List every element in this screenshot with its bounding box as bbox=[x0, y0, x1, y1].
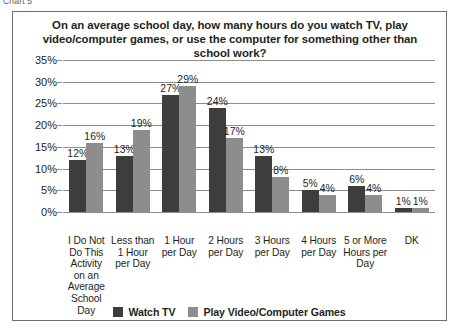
legend-label: Play Video/Computer Games bbox=[203, 306, 345, 318]
bar-group: 5%4% bbox=[296, 60, 343, 212]
bar-group: 1%1% bbox=[389, 60, 436, 212]
legend-item[interactable]: Watch TV bbox=[113, 306, 175, 318]
legend-color-swatch bbox=[113, 307, 123, 317]
bar-value-label: 5% bbox=[303, 178, 318, 189]
y-axis-tick: 30% bbox=[35, 76, 57, 88]
bar-value-label: 6% bbox=[349, 174, 364, 185]
bar[interactable]: 8% bbox=[272, 177, 289, 212]
bar-value-label: 12% bbox=[67, 148, 88, 159]
bar-value-label: 29% bbox=[177, 74, 198, 85]
bar-value-label: 17% bbox=[224, 126, 245, 137]
y-axis-tick: 35% bbox=[35, 54, 57, 66]
bar[interactable]: 19% bbox=[133, 130, 150, 213]
bar[interactable]: 29% bbox=[179, 86, 196, 212]
bar-value-label: 16% bbox=[84, 131, 105, 142]
chart-legend: Watch TVPlay Video/Computer Games bbox=[13, 306, 446, 318]
bar[interactable]: 16% bbox=[86, 143, 103, 212]
x-axis-category-labels: I Do Not Do This Activity on an Average … bbox=[63, 235, 435, 316]
legend-color-swatch bbox=[188, 307, 198, 317]
x-axis-label: 1 Hour per Day bbox=[156, 235, 203, 258]
bar-group: 13%8% bbox=[249, 60, 296, 212]
bar[interactable]: 4% bbox=[365, 195, 382, 212]
chart-number-label: Chart 5 bbox=[3, 0, 32, 6]
y-axis-tick: 5% bbox=[41, 184, 57, 196]
y-axis-tick: 15% bbox=[35, 141, 57, 153]
chart-figure-frame: On an average school day, how many hours… bbox=[12, 11, 447, 321]
bars-layer: 12%16%13%19%27%29%24%17%13%8%5%4%6%4%1%1… bbox=[63, 60, 435, 212]
bar[interactable]: 5% bbox=[302, 190, 319, 212]
bar-value-label: 1% bbox=[396, 196, 411, 207]
bar-value-label: 4% bbox=[366, 183, 381, 194]
x-axis-label: Less than 1 Hour per Day bbox=[110, 235, 157, 270]
x-axis-label: 3 Hours per Day bbox=[249, 235, 296, 258]
y-axis-tick: 10% bbox=[35, 163, 57, 175]
bar[interactable]: 24% bbox=[209, 108, 226, 212]
axis-tick-mark bbox=[57, 147, 62, 148]
chart-title: On an average school day, how many hours… bbox=[27, 18, 433, 61]
bar[interactable]: 4% bbox=[319, 195, 336, 212]
y-axis-tick: 0% bbox=[41, 206, 57, 218]
bar[interactable]: 17% bbox=[226, 138, 243, 212]
y-axis-tick-labels: 0%5%10%15%20%25%30%35% bbox=[13, 60, 61, 212]
bar-group: 12%16% bbox=[63, 60, 110, 212]
legend-item[interactable]: Play Video/Computer Games bbox=[188, 306, 345, 318]
bar[interactable]: 1% bbox=[395, 208, 412, 212]
bar-value-label: 4% bbox=[320, 183, 335, 194]
bar-group: 13%19% bbox=[110, 60, 157, 212]
x-axis-label: 4 Hours per Day bbox=[296, 235, 343, 258]
bar[interactable]: 1% bbox=[412, 208, 429, 212]
bar-group: 6%4% bbox=[342, 60, 389, 212]
bar-value-label: 19% bbox=[131, 118, 152, 129]
y-axis-tick: 20% bbox=[35, 119, 57, 131]
plot-area: 12%16%13%19%27%29%24%17%13%8%5%4%6%4%1%1… bbox=[63, 60, 435, 212]
axis-tick-mark bbox=[57, 125, 62, 126]
x-axis-label: 5 or More Hours per Day bbox=[342, 235, 389, 270]
bar-group: 27%29% bbox=[156, 60, 203, 212]
x-axis-label: DK bbox=[389, 235, 436, 247]
bar[interactable]: 13% bbox=[116, 156, 133, 212]
bar[interactable]: 27% bbox=[162, 95, 179, 212]
x-axis-label: I Do Not Do This Activity on an Average … bbox=[63, 235, 110, 316]
plot-wrapper: 0%5%10%15%20%25%30%35% 12%16%13%19%27%29… bbox=[13, 60, 446, 235]
bar-value-label: 1% bbox=[413, 196, 428, 207]
bar-value-label: 24% bbox=[207, 96, 228, 107]
axis-tick-mark bbox=[57, 82, 62, 83]
gridline bbox=[63, 212, 435, 213]
axis-tick-mark bbox=[57, 169, 62, 170]
axis-tick-mark bbox=[57, 103, 62, 104]
bar[interactable]: 12% bbox=[69, 160, 86, 212]
bar[interactable]: 13% bbox=[255, 156, 272, 212]
bar-value-label: 13% bbox=[253, 144, 274, 155]
axis-tick-mark bbox=[57, 60, 62, 61]
y-axis-tick: 25% bbox=[35, 97, 57, 109]
bar-group: 24%17% bbox=[203, 60, 250, 212]
legend-label: Watch TV bbox=[128, 306, 175, 318]
bar[interactable]: 6% bbox=[348, 186, 365, 212]
axis-tick-mark bbox=[57, 190, 62, 191]
x-axis-label: 2 Hours per Day bbox=[203, 235, 250, 258]
bar-value-label: 13% bbox=[114, 144, 135, 155]
axis-tick-mark bbox=[57, 212, 62, 213]
bar-value-label: 8% bbox=[273, 165, 288, 176]
